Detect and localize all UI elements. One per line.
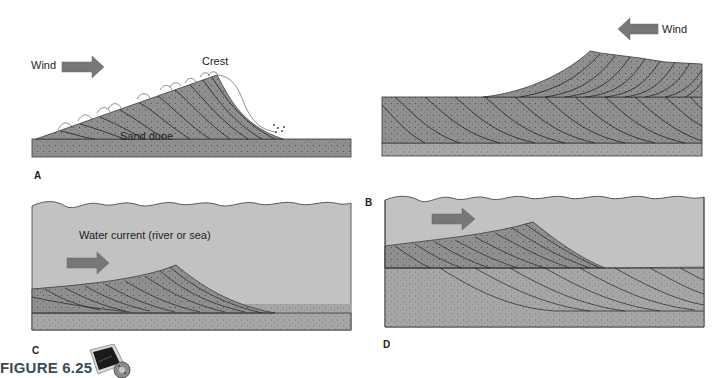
cross-bedding-diagram (0, 0, 725, 378)
wind-arrow-left-icon (618, 18, 658, 40)
figure-title: FIGURE 6.25 (0, 360, 92, 375)
panel-letter-b: B (365, 198, 372, 208)
panel-letter-c: C (32, 346, 39, 356)
wind-arrow-right-icon (62, 56, 104, 78)
panel-letter-d: D (383, 340, 390, 350)
wind-label-a: Wind (31, 60, 56, 71)
panel-a (32, 56, 351, 157)
panel-c (32, 202, 351, 331)
panel-d (385, 196, 704, 327)
panel-b-base-layer (382, 143, 702, 156)
panel-letter-a: A (34, 171, 41, 181)
wind-label-b: Wind (662, 24, 687, 35)
panel-a-grain-dots (273, 124, 285, 133)
panel-b (382, 18, 702, 156)
crest-label: Crest (202, 56, 228, 67)
panel-a-base-layer (32, 139, 351, 157)
sand-dune-label: Sand dune (120, 131, 173, 142)
water-current-label: Water current (river or sea) (79, 230, 211, 241)
media-player-cd-icon[interactable] (84, 344, 132, 378)
panel-d-lower-layer (385, 268, 704, 327)
